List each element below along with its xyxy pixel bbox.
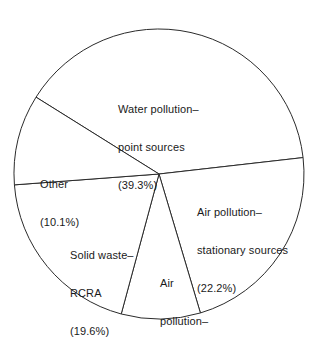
pie-chart: Water pollution– point sources (39.3%) A… <box>0 0 322 344</box>
slice-label-line: Water pollution– <box>118 103 199 116</box>
slice-label-line: Air pollution– <box>197 206 288 219</box>
slice-label-air-pollution-stationary-sources: Air pollution– stationary sources (22.2%… <box>197 181 288 320</box>
slice-label-line: stationary sources <box>197 244 288 257</box>
slice-label-line: Solid waste– <box>70 249 134 262</box>
slice-label-solid-waste-rcra: Solid waste– RCRA (19.6%) <box>70 224 134 344</box>
slice-label-line: point sources <box>118 141 199 154</box>
slice-label-line: Air <box>160 277 208 290</box>
slice-label-other: Other (10.1%) <box>40 153 79 254</box>
slice-label-line: Other <box>40 178 79 191</box>
slice-label-percent: (22.2%) <box>197 282 288 295</box>
slice-label-percent: (19.6%) <box>70 325 134 338</box>
slice-label-percent: (39.3%) <box>118 179 199 192</box>
slice-label-line: pollution– <box>160 315 208 328</box>
slice-label-air-pollution-mobile-sources: Air pollution– mobile sources (8.8%) <box>160 252 208 344</box>
slice-label-line: RCRA <box>70 287 134 300</box>
slice-label-water-pollution-point-sources: Water pollution– point sources (39.3%) <box>118 78 199 217</box>
slice-label-percent: (10.1%) <box>40 216 79 229</box>
